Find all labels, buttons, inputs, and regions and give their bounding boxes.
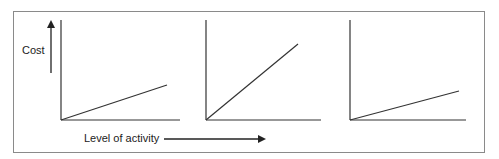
- panel-steep-slope: [206, 20, 321, 120]
- cost-behaviour-diagram: [0, 0, 499, 159]
- x-axis-label: Level of activity: [84, 132, 159, 144]
- panel-low-slope: [61, 20, 180, 120]
- panel-lowest-slope: [350, 20, 466, 120]
- y-axis-label: Cost: [22, 44, 45, 56]
